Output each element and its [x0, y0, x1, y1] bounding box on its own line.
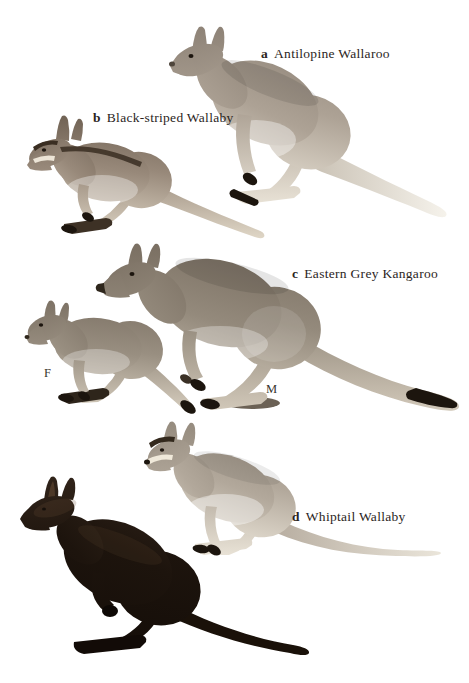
- label-male: M: [266, 382, 277, 396]
- dark-kangaroo-eye: [42, 507, 46, 510]
- antilopine-nose: [169, 62, 175, 67]
- label-black-striped-wallaby: bBlack-striped Wallaby: [93, 110, 234, 125]
- antilopine-eye: [189, 54, 194, 58]
- blackstriped-ear-left-icon: [56, 116, 69, 142]
- egk-male-eye: [130, 272, 135, 276]
- label-key-c: c: [292, 266, 298, 281]
- dark-kangaroo-ear-right-icon: [61, 478, 75, 500]
- label-name-whiptail-wallaby: Whiptail Wallaby: [306, 509, 406, 524]
- label-name-black-striped-wallaby: Black-striped Wallaby: [107, 110, 234, 125]
- illustration-whiptail-wallaby: [144, 422, 441, 558]
- blackstriped-ear-right-icon: [71, 119, 83, 141]
- illustration-canvas: [0, 0, 469, 683]
- egk-female-nose: [25, 335, 30, 339]
- dark-kangaroo-feet: [74, 635, 147, 654]
- label-antilopine-wallaroo: aAntilopine Wallaroo: [261, 46, 390, 61]
- label-key-d: d: [292, 509, 300, 524]
- dark-kangaroo-paw: [102, 605, 118, 617]
- whiptail-tail: [270, 520, 441, 556]
- label-whiptail-wallaby: dWhiptail Wallaby: [292, 509, 406, 524]
- label-name-eastern-grey-kangaroo: Eastern Grey Kangaroo: [304, 266, 438, 281]
- field-guide-plate: aAntilopine Wallaroo bBlack-striped Wall…: [0, 0, 469, 683]
- blackstriped-eye: [42, 148, 46, 152]
- label-key-b: b: [93, 110, 101, 125]
- egk-male-tail-tip: [406, 388, 457, 408]
- antilopine-paw: [241, 170, 260, 187]
- whiptail-nose: [144, 460, 150, 465]
- whiptail-belly-highlight: [186, 494, 264, 526]
- label-female: F: [44, 366, 51, 380]
- egk-male-thigh-highlight: [242, 306, 306, 362]
- egk-female-belly-highlight: [62, 349, 130, 375]
- blackstriped-belly-highlight: [66, 175, 138, 205]
- antilopine-belly-highlight: [216, 120, 296, 160]
- label-key-a: a: [261, 46, 268, 61]
- egk-female-eye: [39, 323, 43, 327]
- label-eastern-grey-kangaroo: cEastern Grey Kangaroo: [292, 266, 438, 281]
- label-name-antilopine-wallaroo: Antilopine Wallaroo: [274, 46, 390, 61]
- whiptail-eye: [160, 448, 164, 452]
